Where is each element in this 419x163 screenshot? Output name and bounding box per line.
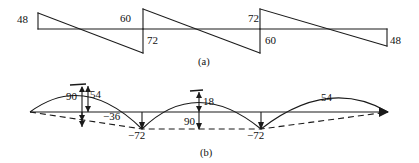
b-dashed-chord [30, 112, 388, 129]
a-slope-2 [143, 9, 260, 53]
label-b-54-right: 54 [321, 92, 332, 103]
diagram-a-group [38, 9, 387, 53]
b-dim-54-left-arrow-bottom [85, 106, 91, 112]
label-a-mid2-72: 72 [248, 13, 259, 24]
diagram-b-group [30, 84, 389, 130]
figure-container: 48 60 72 72 60 48 (a) 90 54 −36 −72 18 9… [0, 0, 419, 163]
label-a-mid2-60: 60 [265, 35, 276, 46]
b-dim-18-arrow-top [196, 92, 202, 98]
a-slope-3 [260, 9, 387, 46]
label-b-neg36: −36 [103, 111, 120, 122]
label-b-90-left: 90 [66, 91, 77, 102]
label-b-neg72-1: −72 [128, 130, 145, 141]
label-a-right-48: 48 [390, 35, 401, 46]
caption-a: (a) [198, 57, 210, 68]
label-a-mid1-60: 60 [120, 13, 131, 24]
caption-b: (b) [200, 148, 212, 159]
b-dim-18-arrow-bottom [196, 106, 202, 112]
figure-svg [0, 0, 419, 163]
label-a-mid1-72: 72 [147, 35, 158, 46]
label-a-left-48: 48 [17, 14, 28, 25]
label-b-neg72-2: −72 [247, 130, 264, 141]
label-b-18: 18 [203, 96, 214, 107]
label-b-54-left: 54 [90, 89, 101, 100]
b-dim-90-left-arrow-top [79, 86, 85, 92]
b-dim-36-arrow-bottom [79, 121, 85, 127]
label-b-90-mid: 90 [184, 116, 195, 127]
b-peak-tick-mid [190, 90, 203, 91]
b-peak-tick-left [70, 84, 86, 85]
